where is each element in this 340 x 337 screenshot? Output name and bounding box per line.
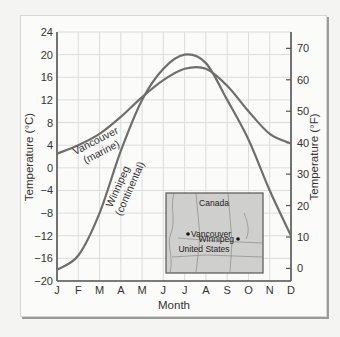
x-tick-label: A bbox=[202, 284, 210, 296]
x-tick-label: N bbox=[266, 284, 274, 296]
y-tick-label: 20 bbox=[41, 49, 53, 61]
y-right-tick-label: 70 bbox=[297, 42, 309, 54]
map-dot-vancouver bbox=[186, 232, 190, 236]
x-tick-label: M bbox=[95, 284, 104, 296]
y-tick-label: 4 bbox=[47, 139, 53, 151]
y-tick-label: −12 bbox=[34, 230, 53, 242]
map-label-united-states: United States bbox=[178, 244, 229, 254]
y-tick-label: 12 bbox=[41, 94, 53, 106]
map-label-winnipeg: Winnipeg bbox=[199, 234, 235, 244]
x-tick-label: A bbox=[117, 284, 125, 296]
x-tick-label: M bbox=[138, 284, 147, 296]
x-tick-label: J bbox=[161, 284, 167, 296]
temperature-chart: 24201612840−4−8−12−16−20 706050403020100… bbox=[0, 0, 340, 337]
y-axis-label-left: Temperature (°C) bbox=[23, 113, 35, 201]
map-label-canada: Canada bbox=[199, 198, 229, 208]
x-axis-ticks: JFMAMJJASOND bbox=[54, 284, 295, 296]
y-tick-label: −20 bbox=[34, 275, 53, 287]
x-axis-label: Month bbox=[158, 299, 190, 311]
inset-map: Canada United States Vancouver Winnipeg bbox=[166, 193, 263, 273]
y-tick-label: −8 bbox=[40, 207, 53, 219]
x-tick-label: O bbox=[244, 284, 253, 296]
y-tick-label: −4 bbox=[40, 184, 53, 196]
x-tick-label: S bbox=[224, 284, 231, 296]
x-tick-label: F bbox=[75, 284, 82, 296]
y-axis-label-right: Temperature (°F) bbox=[308, 113, 320, 200]
y-tick-label: −16 bbox=[34, 252, 53, 264]
y-right-tick-label: 0 bbox=[297, 262, 303, 274]
y-tick-label: 24 bbox=[41, 26, 53, 38]
x-tick-label: D bbox=[287, 284, 295, 296]
map-dot-winnipeg bbox=[236, 237, 240, 241]
y-tick-label: 0 bbox=[47, 162, 53, 174]
y-right-tick-label: 10 bbox=[297, 231, 309, 243]
y-right-tick-label: 60 bbox=[297, 74, 309, 86]
x-tick-label: J bbox=[182, 284, 188, 296]
series-labels: Vancouver (marine) Winnipeg (continental… bbox=[70, 124, 146, 218]
x-tick-label: J bbox=[54, 284, 60, 296]
y-tick-label: 16 bbox=[41, 71, 53, 83]
y-axis-left-ticks: 24201612840−4−8−12−16−20 bbox=[34, 26, 53, 287]
y-tick-label: 8 bbox=[47, 117, 53, 129]
